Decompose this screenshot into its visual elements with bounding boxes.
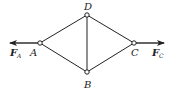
- label-d: D: [83, 1, 92, 12]
- truss-svg: D B A C FA FC: [0, 0, 175, 97]
- fc-subscript: C: [159, 52, 164, 59]
- member-dc: [87, 15, 134, 43]
- member-bc: [87, 43, 134, 72]
- label-fc: FC: [151, 47, 164, 59]
- label-c: C: [131, 47, 139, 58]
- truss-members: [40, 15, 134, 72]
- fa-subscript: A: [16, 52, 22, 59]
- truss-diagram: D B A C FA FC: [0, 0, 175, 97]
- member-ad: [40, 15, 87, 43]
- label-a: A: [29, 47, 37, 58]
- label-fa: FA: [9, 47, 22, 59]
- joint-d: [85, 13, 89, 17]
- label-b: B: [83, 79, 91, 90]
- joint-b: [85, 70, 89, 74]
- joint-a: [38, 41, 42, 45]
- member-ab: [40, 43, 87, 72]
- joint-c: [132, 41, 136, 45]
